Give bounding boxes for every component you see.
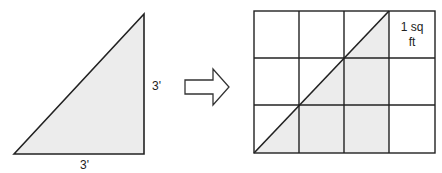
cell-label-line2: ft bbox=[409, 35, 416, 49]
right-arrow-icon bbox=[185, 69, 229, 105]
cell-label-line1: 1 sq bbox=[401, 20, 424, 34]
triangle-area-diagram: 3' 3' 1 sq ft bbox=[0, 0, 442, 173]
horizontal-side-label: 3' bbox=[80, 158, 89, 172]
right-triangle bbox=[14, 14, 144, 154]
vertical-side-label: 3' bbox=[152, 79, 161, 93]
